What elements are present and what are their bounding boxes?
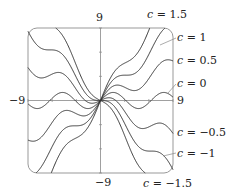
y-tick-top: 9 [96,12,103,23]
label-c-neg1: c = −1 [177,148,216,159]
label-c-0: c = 0 [177,78,206,89]
label-c-neg0.5: c = −0.5 [177,127,226,138]
x-tick-right: 9 [177,95,184,106]
plot-area [0,0,231,196]
label-c-1: c = 1 [177,32,206,43]
label-leader-lines [160,38,176,156]
y-tick-bottom: −9 [95,177,111,188]
x-tick-left: −9 [9,95,25,106]
label-c-0.5: c = 0.5 [177,55,217,66]
label-c-1.5: c = 1.5 [147,9,187,20]
label-c-neg1.5: c = −1.5 [143,178,192,189]
